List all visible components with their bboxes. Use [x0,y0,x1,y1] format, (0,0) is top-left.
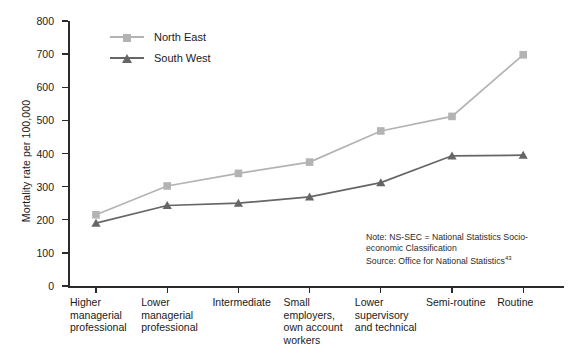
note-line-2: economic Classification [366,243,571,254]
y-tick-label: 0 [0,280,54,292]
legend-item-north-east[interactable]: North East [110,28,211,46]
data-point-marker [448,113,456,121]
legend-swatch-south-west [110,52,144,64]
x-axis-category-labels: Higher managerial professionalLower mana… [68,296,574,353]
legend-item-south-west[interactable]: South West [110,49,211,67]
x-tick [95,286,96,293]
series-line-north-east [96,55,523,215]
x-tick [380,286,381,293]
y-tick-label: 700 [0,48,54,60]
x-category-label: Higher managerial professional [70,296,142,334]
x-category-label: Lower managerial professional [141,296,213,334]
y-tick-label: 400 [0,148,54,160]
legend-label-north-east: North East [154,31,206,43]
x-tick [309,286,310,293]
legend-swatch-north-east [110,31,144,43]
data-point-marker [163,182,171,190]
x-category-label: Semi-routine [426,296,498,309]
y-tick-label: 500 [0,114,54,126]
data-point-marker [519,51,527,59]
data-point-marker [92,211,100,219]
x-tick [523,286,524,293]
x-category-label: Lower supervisory and technical [355,296,427,334]
y-tick-label: 800 [0,15,54,27]
data-point-marker [306,158,314,166]
data-point-marker [235,170,243,178]
x-category-label: Small employers, own account workers [284,296,356,346]
y-tick-label: 100 [0,247,54,259]
y-tick-label: 200 [0,214,54,226]
x-category-label: Intermediate [212,296,284,309]
x-tick [451,286,452,293]
y-tick-label: 600 [0,81,54,93]
note-superscript: 43 [505,255,512,261]
note-line-1: Note: NS-SEC = National Statistics Socio… [366,232,571,243]
x-tick [167,286,168,293]
note-line-3: Source: Office for National Statistics43 [366,253,571,266]
legend: North East South West [110,28,211,70]
chart-container: Mortality rate per 100,000 0100200300400… [0,0,574,353]
y-tick-label: 300 [0,181,54,193]
data-point-marker [377,127,385,135]
note-source-text: Source: Office for National Statistics [366,256,505,266]
chart-note: Note: NS-SEC = National Statistics Socio… [366,232,571,267]
x-category-label: Routine [497,296,569,309]
x-tick [238,286,239,293]
legend-label-south-west: South West [154,52,211,64]
